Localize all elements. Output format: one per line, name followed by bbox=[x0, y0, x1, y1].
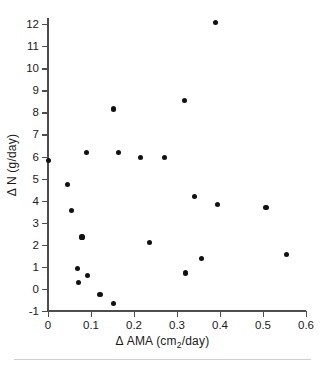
x-tick-mark bbox=[177, 311, 178, 317]
data-point bbox=[111, 106, 116, 111]
x-axis-title-suffix: /day) bbox=[182, 334, 210, 348]
y-tick-label: 12 bbox=[26, 18, 39, 30]
x-tick-mark bbox=[220, 311, 221, 317]
scatter-plot-figure: 1211109876543210-1 00.10.20.30.40.50.6 Δ… bbox=[0, 0, 325, 367]
data-point bbox=[182, 98, 187, 103]
x-tick-label: 0.5 bbox=[255, 319, 271, 331]
x-tick-label: 0.6 bbox=[298, 319, 314, 331]
y-tick-label: 5 bbox=[33, 173, 39, 185]
x-axis-title-prefix: Δ AMA (cm bbox=[116, 334, 177, 348]
y-tick-label: 10 bbox=[26, 62, 39, 74]
x-tick-mark bbox=[306, 311, 307, 317]
y-tick-label: 4 bbox=[33, 195, 39, 207]
data-point bbox=[76, 280, 81, 285]
data-point bbox=[79, 234, 84, 239]
x-axis-title: Δ AMA (cm2/day) bbox=[0, 334, 325, 350]
data-point bbox=[69, 208, 74, 213]
y-tick-label: 7 bbox=[33, 128, 39, 140]
data-point bbox=[162, 155, 167, 160]
y-tick-label: 2 bbox=[33, 239, 39, 251]
x-tick-label: 0 bbox=[45, 319, 51, 331]
y-tick-label: 1 bbox=[33, 261, 39, 273]
data-point bbox=[84, 150, 89, 155]
y-tick-label: 6 bbox=[33, 151, 39, 163]
data-point bbox=[183, 270, 188, 275]
x-tick-label: 0.4 bbox=[212, 319, 228, 331]
data-point bbox=[75, 266, 80, 271]
y-tick-label: 8 bbox=[33, 106, 39, 118]
x-tick-label: 0.1 bbox=[83, 319, 99, 331]
data-point bbox=[111, 301, 116, 306]
footer-divider bbox=[14, 359, 311, 360]
y-tick-label: -1 bbox=[29, 305, 39, 317]
data-point bbox=[263, 205, 268, 210]
x-tick-label: 0.2 bbox=[126, 319, 142, 331]
data-point bbox=[85, 273, 90, 278]
y-axis-title: Δ N (g/day) bbox=[5, 80, 19, 250]
plot-data-area bbox=[48, 18, 306, 311]
x-tick-label: 0.3 bbox=[169, 319, 185, 331]
x-tick-mark bbox=[134, 311, 135, 317]
x-tick-mark bbox=[48, 311, 49, 317]
y-tick-label: 0 bbox=[33, 283, 39, 295]
y-tick-label: 3 bbox=[33, 217, 39, 229]
y-tick-label: 11 bbox=[27, 40, 39, 52]
x-tick-mark bbox=[263, 311, 264, 317]
y-tick-label: 9 bbox=[33, 84, 39, 96]
x-tick-mark bbox=[91, 311, 92, 317]
